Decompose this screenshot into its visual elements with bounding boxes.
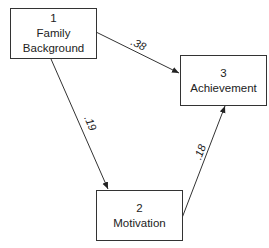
node-family-background: 1 Family Background bbox=[10, 8, 97, 59]
edge-motivation-to-achievement bbox=[182, 106, 225, 218]
node-achievement: 3 Achievement bbox=[180, 55, 267, 106]
node-motivation: 2 Motivation bbox=[96, 190, 183, 241]
node-number: 3 bbox=[220, 66, 226, 81]
node-label-line2: Background bbox=[23, 41, 84, 56]
node-label-line1: Motivation bbox=[113, 216, 165, 231]
node-label-line1: Family bbox=[37, 26, 71, 41]
node-number: 2 bbox=[136, 201, 142, 216]
node-label-line1: Achievement bbox=[190, 81, 256, 96]
edge-family-to-motivation bbox=[51, 59, 108, 189]
node-number: 1 bbox=[50, 11, 56, 26]
